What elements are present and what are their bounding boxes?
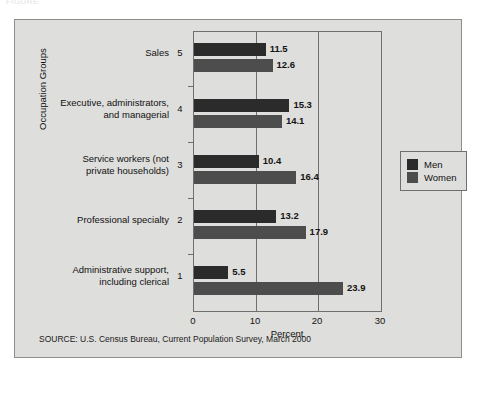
category-number-4: 4	[173, 103, 187, 115]
bar-value-men-administrative-support: 5.5	[228, 265, 245, 278]
category-label-professional-specialty: Professional specialty	[19, 214, 169, 226]
category-label-executive-line2: and managerial	[19, 109, 169, 121]
bar-value-men-service-workers: 10.4	[259, 154, 282, 167]
category-label-service-workers: Service workers (not private households)	[19, 153, 169, 176]
scan-top-strip: FIGURE	[0, 0, 482, 8]
category-label-executive: Executive, administrators, and manageria…	[19, 97, 169, 120]
bar-men-service-workers[interactable]	[194, 155, 259, 168]
bar-value-women-administrative-support: 23.9	[343, 281, 366, 294]
bar-value-women-executive: 14.1	[282, 114, 305, 127]
legend-swatch-men-icon	[407, 159, 418, 170]
bar-value-men-executive: 15.3	[289, 98, 312, 111]
bar-group-service-workers: 10.4 16.4	[194, 144, 381, 200]
x-tick-label-20: 20	[304, 315, 330, 326]
bar-value-men-sales: 11.5	[266, 42, 288, 55]
category-number-5: 5	[173, 47, 187, 59]
bar-women-service-workers[interactable]	[194, 171, 296, 184]
bar-group-executive: 15.3 14.1	[194, 88, 381, 144]
bar-women-executive[interactable]	[194, 115, 282, 128]
x-tick-label-0: 0	[180, 315, 206, 326]
legend-item-women[interactable]: Women	[407, 172, 457, 183]
legend-label-women: Women	[424, 172, 457, 183]
category-number-2: 2	[173, 214, 187, 226]
scan-top-strip-text: FIGURE	[6, 0, 482, 6]
category-label-sales: Sales	[19, 47, 169, 59]
legend-item-men[interactable]: Men	[407, 159, 457, 170]
category-label-sales-line1: Sales	[19, 47, 169, 59]
category-label-administrative-support-line1: Administrative support,	[19, 264, 169, 276]
bar-women-administrative-support[interactable]	[194, 282, 343, 295]
category-label-service-workers-line2: private households)	[19, 165, 169, 177]
figure-panel: Occupation Groups Sales 5 Executive, adm…	[14, 19, 462, 358]
legend-swatch-women-icon	[407, 172, 418, 183]
bar-men-sales[interactable]	[194, 43, 266, 56]
category-label-administrative-support: Administrative support, including cleric…	[19, 264, 169, 287]
category-number-3: 3	[173, 159, 187, 171]
bar-group-sales: 11.5 12.6	[194, 32, 381, 88]
bar-group-administrative-support: 5.5 23.9	[194, 255, 381, 311]
category-label-administrative-support-line2: including clerical	[19, 276, 169, 288]
legend-label-men: Men	[424, 159, 442, 170]
bar-group-professional-specialty: 13.2 17.9	[194, 199, 381, 255]
plot-area: 11.5 12.6 15.3 14.1 10.4 16.4 13.2 17.9	[193, 31, 382, 312]
bar-men-professional-specialty[interactable]	[194, 210, 276, 223]
chart-legend: Men Women	[400, 151, 467, 191]
category-label-professional-specialty-line1: Professional specialty	[19, 214, 169, 226]
category-label-service-workers-line1: Service workers (not	[19, 153, 169, 165]
bar-value-men-professional-specialty: 13.2	[276, 209, 299, 222]
x-tick-label-10: 10	[242, 315, 268, 326]
source-note: SOURCE: U.S. Census Bureau, Current Popu…	[39, 334, 311, 344]
bar-value-women-sales: 12.6	[273, 58, 296, 71]
category-number-1: 1	[173, 270, 187, 282]
bar-value-women-service-workers: 16.4	[296, 170, 319, 183]
category-label-executive-line1: Executive, administrators,	[19, 97, 169, 109]
x-tick-label-30: 30	[367, 315, 393, 326]
bar-men-executive[interactable]	[194, 99, 289, 112]
bar-women-sales[interactable]	[194, 59, 273, 72]
bar-value-women-professional-specialty: 17.9	[306, 225, 329, 238]
bar-men-administrative-support[interactable]	[194, 266, 228, 279]
bar-women-professional-specialty[interactable]	[194, 226, 306, 239]
